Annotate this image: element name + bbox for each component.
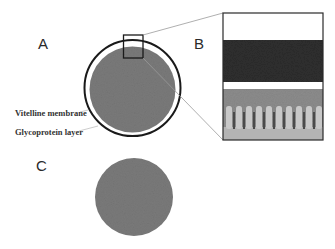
- pillar: [276, 106, 282, 129]
- outer-white-region: [223, 13, 323, 40]
- panel-a: A Vitelline membrane Glycoprotein layer: [15, 13, 223, 140]
- gap: [273, 112, 275, 129]
- thin-white-gap: [223, 82, 323, 89]
- pillar: [286, 106, 292, 129]
- cell-body: [90, 47, 176, 133]
- gap: [233, 112, 235, 129]
- gap: [243, 112, 245, 129]
- pillar: [226, 106, 232, 129]
- vitelline-membrane-label: Vitelline membrane: [15, 108, 87, 118]
- pillar: [266, 106, 272, 129]
- glycoprotein-layer-label: Glycoprotein layer: [15, 127, 83, 137]
- gap: [303, 112, 305, 129]
- gap: [313, 112, 315, 129]
- magnified-section: [223, 13, 323, 140]
- bare-cell: [95, 158, 173, 236]
- panel-b: B: [194, 13, 323, 140]
- figure-canvas: A Vitelline membrane Glycoprotein layer …: [0, 0, 335, 249]
- gap: [283, 112, 285, 129]
- connector-line-top: [143, 13, 223, 35]
- pillar: [316, 106, 322, 129]
- glycoprotein-dark-band: [223, 40, 323, 82]
- gap: [293, 112, 295, 129]
- gap: [263, 112, 265, 129]
- pillar: [236, 106, 242, 129]
- pillar: [246, 106, 252, 129]
- pillar: [256, 106, 262, 129]
- gap: [253, 112, 255, 129]
- panel-a-label: A: [38, 35, 48, 52]
- panel-b-label: B: [194, 35, 204, 52]
- panel-c-label: C: [36, 157, 47, 174]
- pillar: [306, 106, 312, 129]
- panel-c: C: [36, 157, 173, 236]
- pillar: [296, 106, 302, 129]
